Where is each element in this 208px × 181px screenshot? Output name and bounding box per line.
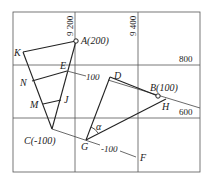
- label-h: H: [161, 101, 170, 112]
- contour-label-minus100: -100: [101, 144, 118, 154]
- plane-triangle-left: [23, 41, 76, 129]
- label-g: G: [81, 141, 88, 152]
- label-alpha: α: [96, 121, 102, 132]
- contour-label-100: 100: [86, 72, 100, 82]
- grid-label-600: 600: [179, 107, 193, 117]
- grid-label-9400: 9 400: [128, 15, 138, 36]
- label-j: J: [64, 94, 69, 105]
- point-b-marker: [156, 94, 160, 98]
- label-k: K: [13, 47, 22, 58]
- label-f: F: [139, 152, 147, 163]
- label-n: N: [19, 77, 28, 88]
- label-c: C(-100): [24, 135, 56, 147]
- label-m: M: [29, 99, 39, 110]
- label-e: E: [59, 60, 66, 71]
- grid-label-9200: 9 200: [65, 15, 75, 36]
- label-d: D: [113, 70, 122, 81]
- diagram-canvas: 9 200 9 400 800 600 A(200) K E N J M C(-…: [0, 0, 208, 181]
- label-a: A(200): [80, 35, 109, 47]
- point-a-marker: [74, 39, 78, 43]
- grid-label-800: 800: [179, 54, 193, 64]
- label-b: B(100): [150, 82, 178, 94]
